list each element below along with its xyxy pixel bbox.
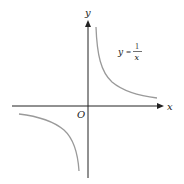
y-axis-arrow-icon xyxy=(85,20,91,27)
y-axis-label: y xyxy=(84,7,91,18)
x-axis-label: x xyxy=(167,101,173,112)
equation-lhs: y xyxy=(117,47,124,57)
equation-equals: = xyxy=(126,47,131,57)
x-axis-arrow-icon xyxy=(157,103,164,109)
equation-label: y = 1 x xyxy=(117,42,142,62)
equation-numerator: 1 xyxy=(135,42,139,51)
graph-canvas: x y O y = 1 x xyxy=(0,0,184,184)
curve-branch-negative xyxy=(19,114,79,171)
equation-denominator: x xyxy=(135,53,140,62)
origin-label: O xyxy=(77,109,85,120)
curve-branch-positive xyxy=(96,27,157,98)
